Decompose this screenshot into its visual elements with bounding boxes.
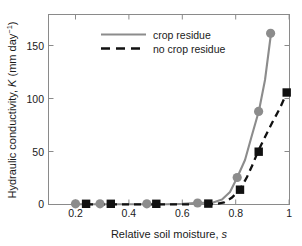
y-axis-title: Hydraulic conductivity, K (mm day−1) xyxy=(5,21,18,198)
x-axis-title-symbol: s xyxy=(222,228,228,240)
chart-figure: 0.2 0.4 0.6 0.8 1 0 50 100 150 Hydraulic… xyxy=(0,0,302,246)
data-point xyxy=(95,199,104,208)
legend-label-crop-residue: crop residue xyxy=(153,29,211,41)
data-point xyxy=(255,148,263,156)
y-tick-label: 150 xyxy=(26,40,44,52)
data-point xyxy=(283,88,291,96)
hydraulic-conductivity-chart: 0.2 0.4 0.6 0.8 1 0 50 100 150 Hydraulic… xyxy=(0,0,302,246)
x-axis-title-main: Relative soil moisture, xyxy=(111,228,222,240)
x-axis-title: Relative soil moisture, s xyxy=(111,228,228,240)
data-point xyxy=(254,107,263,116)
x-tick-label: 0.8 xyxy=(228,207,243,219)
svg-text:Hydraulic conductivity, K (mm: Hydraulic conductivity, K (mm day−1) xyxy=(5,21,18,198)
data-point xyxy=(193,198,202,207)
x-tick-label: 0.6 xyxy=(175,207,190,219)
data-point xyxy=(142,199,151,208)
data-point xyxy=(152,200,160,208)
x-tick-labels: 0.2 0.4 0.6 0.8 1 xyxy=(68,207,292,219)
y-axis-title-exponent: −1 xyxy=(5,25,14,34)
y-tick-label: 50 xyxy=(32,146,44,158)
y-axis-title-part2: (mm day xyxy=(6,33,18,79)
data-point xyxy=(266,29,275,38)
y-tick-label: 0 xyxy=(38,198,44,210)
data-point xyxy=(204,199,212,207)
y-tick-labels: 0 50 100 150 xyxy=(26,40,44,211)
y-tick-label: 100 xyxy=(26,93,44,105)
data-point xyxy=(71,199,80,208)
y-axis-title-part3: ) xyxy=(6,21,18,25)
x-tick-label: 0.4 xyxy=(122,207,137,219)
y-axis-title-part1: Hydraulic conductivity, xyxy=(6,87,18,199)
data-point xyxy=(107,200,115,208)
data-point xyxy=(82,200,90,208)
x-tick-label: 1 xyxy=(286,207,292,219)
data-point xyxy=(236,186,244,194)
x-tick-label: 0.2 xyxy=(68,207,83,219)
data-point xyxy=(233,173,242,182)
legend-label-no-crop-residue: no crop residue xyxy=(153,43,226,55)
